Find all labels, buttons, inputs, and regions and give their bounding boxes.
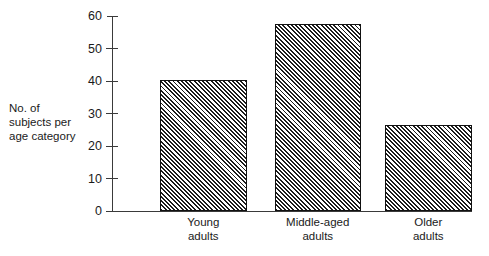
x-axis-category-label-line: adults [138, 230, 269, 244]
y-axis-tick-label: 0 [76, 205, 102, 218]
bar [385, 125, 472, 211]
bar [275, 24, 362, 211]
bar-chart: No. of subjects per age category 0102030… [0, 0, 489, 256]
bar [160, 80, 247, 212]
x-axis-category-label-line: Young [138, 216, 269, 230]
x-axis-category-label-line: adults [363, 230, 489, 244]
y-axis-tick-label: 60 [76, 10, 102, 23]
x-axis-category-label: Youngadults [138, 216, 269, 243]
y-axis-tick-mark [106, 81, 118, 82]
y-axis-tick-mark [106, 146, 118, 147]
x-axis-category-label: Olderadults [363, 216, 489, 243]
y-axis-tick-label: 50 [76, 42, 102, 55]
y-axis-tick-label: 10 [76, 173, 102, 186]
y-axis-tick-mark [106, 113, 118, 114]
y-axis-tick-mark [107, 16, 118, 17]
x-axis-category-label-line: Older [363, 216, 489, 230]
y-axis-tick-label: 30 [76, 108, 102, 121]
y-axis-tick-mark [106, 48, 118, 49]
y-axis-tick-mark [106, 178, 118, 179]
y-axis-tick-label: 20 [76, 140, 102, 153]
y-axis-tick-label: 40 [76, 75, 102, 88]
